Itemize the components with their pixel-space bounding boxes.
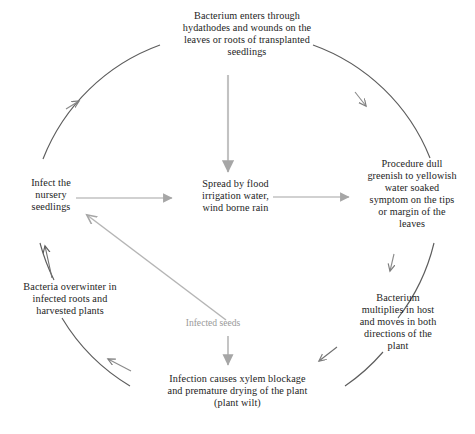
node-symptom-description: Procedure dull greenish to yellowish wat… [357, 158, 467, 230]
arrowhead-lower-right [319, 347, 337, 361]
node-bacteria-overwinter: Bacteria overwinter in infected roots an… [10, 281, 130, 317]
arrowhead-right-lower [390, 254, 394, 271]
arc-wilt-to-overwinter [62, 318, 131, 386]
edge-label-infected-seeds: Infected seeds [166, 317, 260, 328]
arc-entry-to-symptom [313, 45, 430, 158]
node-infect-nursery-seedlings: Infect the nursery seedlings [14, 177, 88, 213]
node-bacterium-enters: Bacterium enters through hydathodes and … [157, 10, 337, 58]
node-bacterium-multiplies: Bacterium multiplies in host and moves i… [342, 292, 454, 352]
node-plant-wilt: Infection causes xylem blockage and prem… [130, 373, 345, 409]
arc-overwinter-to-infect [40, 243, 54, 280]
node-spread-by-flood: Spread by flood irrigation water, wind b… [178, 178, 293, 214]
arc-infect-to-entry [43, 45, 160, 159]
arrowhead-upper-right [355, 92, 366, 106]
disease-cycle-diagram: Bacterium enters through hydathodes and … [0, 0, 475, 434]
arrowhead-lower-left [108, 359, 131, 371]
